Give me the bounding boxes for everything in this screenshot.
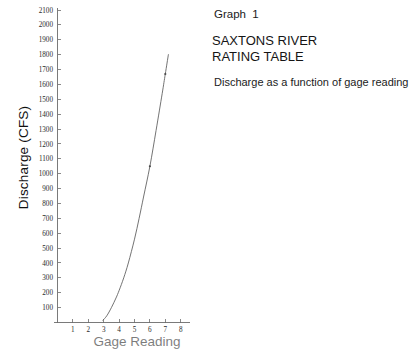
x-tick-label: 4 [117,326,121,334]
y-tick-label: 1700 [39,66,54,74]
y-tick-label: 400 [42,260,53,268]
y-tick-label: 1000 [39,170,54,178]
y-tick-label: 500 [42,245,53,253]
y-tick-label: 300 [42,274,53,282]
x-tick-label: 2 [87,326,91,334]
chart-figure: 1002003004005006007008009001000110012001… [0,0,214,343]
data-point-marker [164,73,166,75]
x-axis-ticks: 12345678 [71,319,183,333]
data-point-marker [149,165,151,167]
x-tick-label: 7 [164,326,168,334]
y-tick-label: 1600 [39,81,54,89]
y-tick-label: 900 [42,185,53,193]
y-tick-label: 1400 [39,111,54,119]
y-tick-label: 1900 [39,36,54,44]
y-tick-label: 1500 [39,96,54,104]
y-tick-label: 2100 [39,7,54,15]
x-tick-label: 6 [148,326,152,334]
x-tick-label: 8 [179,326,183,334]
y-tick-label: 600 [42,230,53,238]
y-tick-label: 1300 [39,126,54,134]
caption-block: Graph 1 SAXTONS RIVER RATING TABLE Disch… [212,0,414,343]
x-tick-label: 3 [102,326,106,334]
curve-path [103,55,168,321]
chart-title: SAXTONS RIVER RATING TABLE [212,33,317,64]
y-axis-title: Discharge (CFS) [16,83,31,233]
x-axis-title: Gage Reading [57,334,217,349]
plot-axes [54,8,190,323]
y-tick-label: 1100 [39,155,54,163]
graph-number-label: Graph 1 [214,8,259,20]
y-tick-label: 2000 [39,21,54,29]
chart-subtitle: Discharge as a function of gage reading [214,76,408,88]
y-tick-label: 700 [42,215,53,223]
chart-title-line-1: SAXTONS RIVER [212,33,317,49]
y-tick-label: 200 [42,289,53,297]
y-tick-label: 1200 [39,141,54,149]
rating-curve-plot: 1002003004005006007008009001000110012001… [0,0,214,343]
discharge-curve [103,55,168,321]
chart-title-line-2: RATING TABLE [212,49,317,65]
x-tick-label: 5 [133,326,137,334]
x-tick-label: 1 [71,326,75,334]
y-tick-label: 1800 [39,51,54,59]
y-tick-label: 100 [42,304,53,312]
y-tick-label: 800 [42,200,53,208]
